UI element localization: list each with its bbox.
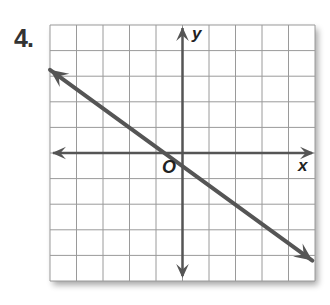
origin-label: O	[162, 157, 176, 178]
x-axis-label: x	[298, 156, 307, 176]
coordinate-plane	[0, 0, 330, 305]
y-axis-label: y	[192, 24, 201, 44]
